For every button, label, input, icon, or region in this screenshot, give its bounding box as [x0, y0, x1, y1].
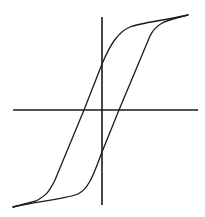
- descending-branch: [13, 15, 188, 207]
- ascending-branch: [13, 15, 188, 207]
- hysteresis-diagram: [0, 0, 205, 217]
